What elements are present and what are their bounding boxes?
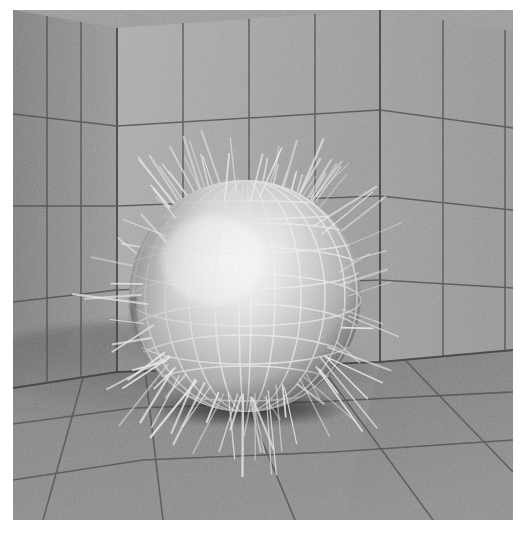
scene-render — [13, 10, 513, 520]
screenshot-canvas — [0, 0, 524, 541]
render-viewport — [13, 10, 513, 520]
sphere-specular-highlight — [161, 216, 265, 304]
right-wall — [380, 10, 513, 362]
hair-strand — [342, 328, 373, 329]
